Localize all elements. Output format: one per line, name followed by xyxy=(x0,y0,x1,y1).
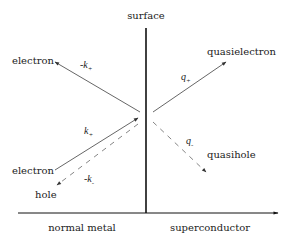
incident-electron-label: electron xyxy=(12,165,54,176)
quasielectron-label: quasielectron xyxy=(207,46,277,57)
quasielectron-arrow xyxy=(153,62,226,112)
quasihole-label: quasihole xyxy=(207,149,256,160)
quasihole-arrow xyxy=(153,122,206,172)
reflected-electron-label: electron xyxy=(12,55,54,66)
reflected-electron-arrow xyxy=(55,62,140,112)
minus-k-minus-label: -k- xyxy=(84,173,95,187)
k-plus-label: k+ xyxy=(84,125,93,139)
normal-metal-label: normal metal xyxy=(48,222,116,233)
incident-electron-arrow xyxy=(55,118,138,170)
surface-label: surface xyxy=(127,10,165,21)
andreev-reflection-diagram: surface normal metal superconductor elec… xyxy=(0,0,290,241)
superconductor-label: superconductor xyxy=(170,222,250,233)
q-plus-label: q+ xyxy=(181,71,191,85)
q-minus-label: q- xyxy=(186,135,194,149)
reflected-hole-arrow xyxy=(57,124,138,185)
reflected-hole-label: hole xyxy=(35,189,57,200)
minus-k-plus-label: -k+ xyxy=(80,59,93,73)
